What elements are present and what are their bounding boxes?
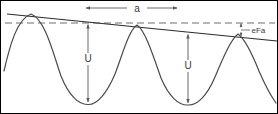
period-label: a <box>134 3 140 14</box>
periodic-potential-curve <box>4 14 276 105</box>
potential-diagram-figure: a U U eFa <box>0 0 278 114</box>
barrier-right-label: U <box>184 60 191 71</box>
field-drop-label: eFa <box>252 26 266 35</box>
potential-diagram-svg: a U U eFa <box>1 1 278 114</box>
barrier-left-label: U <box>84 53 91 64</box>
